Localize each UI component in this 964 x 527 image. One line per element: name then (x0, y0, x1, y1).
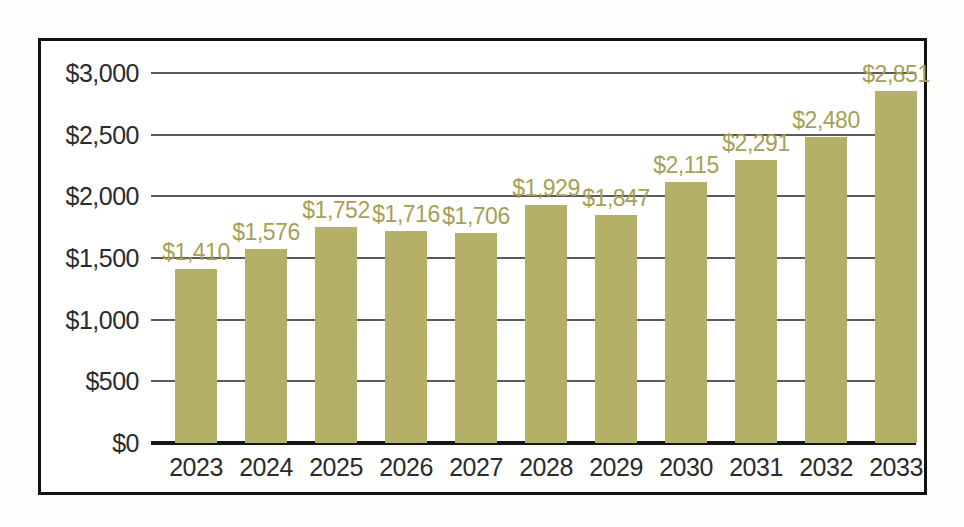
bar-value-label: $1,752 (302, 197, 369, 224)
gridline (151, 72, 916, 74)
bar (735, 160, 777, 443)
bar-group: $1,7162026 (385, 231, 427, 443)
x-axis-category-label: 2023 (169, 453, 223, 482)
bar-value-label: $1,716 (372, 201, 439, 228)
y-axis-tick-label: $1,000 (66, 305, 139, 334)
bar-value-label: $1,576 (232, 219, 299, 246)
x-axis-category-label: 2030 (659, 453, 713, 482)
x-axis-category-label: 2028 (519, 453, 573, 482)
bar-value-label: $1,410 (162, 239, 229, 266)
bar-value-label: $2,115 (653, 152, 719, 179)
bar-group: $1,4102023 (175, 269, 217, 443)
bar (315, 227, 357, 443)
bar-group: $1,7522025 (315, 227, 357, 443)
chart-frame: $3,000$2,500$2,000$1,500$1,000$500$0$1,4… (38, 38, 927, 495)
bar-value-label: $1,706 (442, 203, 509, 230)
bar-value-label: $1,929 (512, 175, 579, 202)
plot-area: $3,000$2,500$2,000$1,500$1,000$500$0$1,4… (151, 73, 916, 443)
bar-group: $2,4802032 (805, 137, 847, 443)
bar (385, 231, 427, 443)
bar (455, 233, 497, 443)
chart-root: $3,000$2,500$2,000$1,500$1,000$500$0$1,4… (0, 0, 964, 527)
bar-group: $1,7062027 (455, 233, 497, 443)
x-axis-category-label: 2033 (869, 453, 923, 482)
x-axis-category-label: 2031 (729, 453, 783, 482)
y-axis-tick-label: $500 (85, 367, 139, 396)
bar-group: $2,8512033 (875, 91, 917, 443)
y-axis-tick-label: $0 (112, 429, 139, 458)
bar (525, 205, 567, 443)
bar (595, 215, 637, 443)
bar-group: $2,1152030 (665, 182, 707, 443)
x-axis-category-label: 2024 (239, 453, 293, 482)
bar (875, 91, 917, 443)
bar (805, 137, 847, 443)
bar-group: $1,8472029 (595, 215, 637, 443)
y-axis-tick-label: $2,000 (66, 182, 139, 211)
bar-value-label: $2,480 (792, 107, 859, 134)
bar (175, 269, 217, 443)
bar-value-label: $1,847 (582, 185, 649, 212)
bar-value-label: $2,851 (862, 61, 929, 88)
x-axis-category-label: 2027 (449, 453, 503, 482)
x-axis-category-label: 2029 (589, 453, 643, 482)
bar-group: $1,5762024 (245, 249, 287, 443)
bar-value-label: $2,291 (722, 130, 789, 157)
bar (665, 182, 707, 443)
x-axis-category-label: 2032 (799, 453, 853, 482)
y-axis-tick-label: $2,500 (66, 120, 139, 149)
y-axis-tick-label: $3,000 (66, 59, 139, 88)
x-axis-category-label: 2025 (309, 453, 363, 482)
bar-group: $1,9292028 (525, 205, 567, 443)
bar-group: $2,2912031 (735, 160, 777, 443)
x-axis-category-label: 2026 (379, 453, 433, 482)
y-axis-tick-label: $1,500 (66, 244, 139, 273)
bar (245, 249, 287, 443)
